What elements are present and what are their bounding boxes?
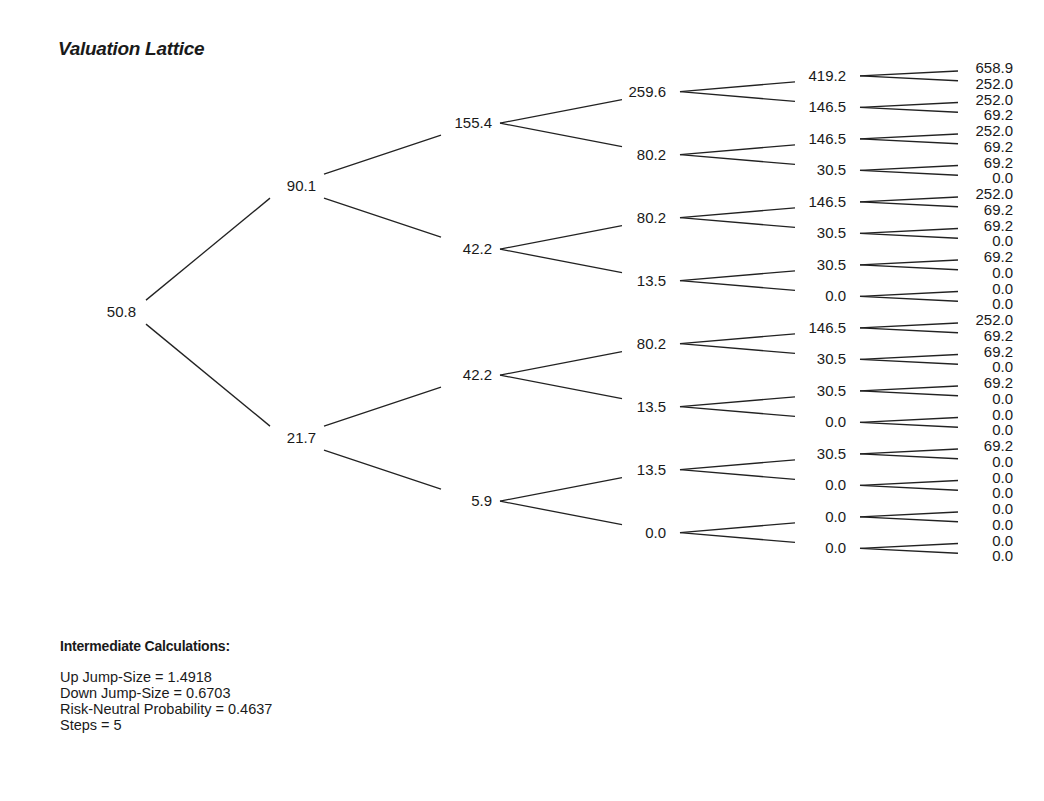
lattice-node-l5-24: 69.2 — [984, 438, 1013, 454]
lattice-node-l5-7: 0.0 — [992, 170, 1013, 186]
lattice-node-l5-27: 0.0 — [992, 485, 1013, 501]
connector-line — [680, 460, 795, 470]
connector-line — [860, 107, 958, 112]
lattice-node-l5-13: 0.0 — [992, 265, 1013, 281]
connector-line — [860, 481, 958, 486]
lattice-node-l4-6: 30.5 — [817, 257, 846, 273]
connector-line — [860, 166, 958, 171]
connector-line — [860, 517, 958, 522]
connector-line — [500, 226, 622, 250]
connector-line — [860, 202, 958, 207]
lattice-node-l4-0: 419.2 — [808, 68, 846, 84]
connector-line — [500, 478, 622, 502]
connector-line — [500, 123, 622, 147]
connector-line — [860, 103, 958, 108]
lattice-node-l5-15: 0.0 — [992, 296, 1013, 312]
lattice-node-l5-22: 0.0 — [992, 407, 1013, 423]
lattice-node-l4-2: 146.5 — [808, 131, 846, 147]
lattice-node-l3-3: 13.5 — [637, 273, 666, 289]
connector-line — [680, 344, 795, 354]
lattice-node-l5-20: 69.2 — [984, 375, 1013, 391]
connector-line — [860, 260, 958, 265]
lattice-node-l5-11: 0.0 — [992, 233, 1013, 249]
connector-line — [324, 135, 441, 174]
connector-line — [860, 512, 958, 517]
lattice-node-l5-4: 252.0 — [975, 123, 1013, 139]
connector-line — [860, 391, 958, 396]
connector-line — [860, 233, 958, 238]
connector-line — [860, 76, 958, 81]
lattice-node-l5-16: 252.0 — [975, 312, 1013, 328]
connector-line — [500, 100, 622, 124]
lattice-node-l5-8: 252.0 — [975, 186, 1013, 202]
lattice-node-l5-0: 658.9 — [975, 60, 1013, 76]
connector-line — [680, 145, 795, 155]
lattice-node-l4-8: 146.5 — [808, 320, 846, 336]
connector-line — [680, 271, 795, 281]
lattice-node-l5-2: 252.0 — [975, 92, 1013, 108]
connector-line — [860, 454, 958, 459]
connector-line — [500, 249, 622, 273]
connector-line — [680, 155, 795, 165]
connector-line — [860, 355, 958, 360]
lattice-node-l4-7: 0.0 — [825, 288, 846, 304]
connector-line — [680, 208, 795, 218]
connector-line — [500, 352, 622, 376]
connector-line — [500, 375, 622, 399]
connector-line — [860, 449, 958, 454]
connector-line — [860, 386, 958, 391]
down-jump-size: Down Jump-Size = 0.6703 — [60, 685, 272, 701]
lattice-node-l3-5: 13.5 — [637, 399, 666, 415]
intermediate-calculations: Intermediate Calculations: Up Jump-Size … — [60, 638, 272, 733]
lattice-node-l5-26: 0.0 — [992, 470, 1013, 486]
lattice-node-l5-10: 69.2 — [984, 218, 1013, 234]
connector-line — [860, 139, 958, 144]
lattice-node-l5-14: 0.0 — [992, 281, 1013, 297]
lattice-node-l5-23: 0.0 — [992, 422, 1013, 438]
lattice-node-l5-21: 0.0 — [992, 391, 1013, 407]
lattice-node-l3-1: 80.2 — [637, 147, 666, 163]
connector-line — [860, 170, 958, 175]
lattice-node-l1-1: 21.7 — [287, 430, 316, 446]
lattice-node-l5-25: 0.0 — [992, 454, 1013, 470]
lattice-node-l4-11: 0.0 — [825, 414, 846, 430]
connector-line — [324, 450, 441, 489]
connector-line — [860, 548, 958, 553]
connector-line — [860, 323, 958, 328]
lattice-node-l5-28: 0.0 — [992, 501, 1013, 517]
connector-line — [860, 418, 958, 423]
connector-line — [860, 292, 958, 297]
lattice-node-l0-0: 50.8 — [107, 304, 136, 320]
lattice-node-l4-3: 30.5 — [817, 162, 846, 178]
lattice-node-l5-1: 252.0 — [975, 76, 1013, 92]
lattice-node-l5-17: 69.2 — [984, 328, 1013, 344]
lattice-node-l4-15: 0.0 — [825, 540, 846, 556]
connector-line — [680, 92, 795, 102]
lattice-node-l3-4: 80.2 — [637, 336, 666, 352]
lattice-node-l1-0: 90.1 — [287, 178, 316, 194]
lattice-node-l3-6: 13.5 — [637, 462, 666, 478]
lattice-node-l2-0: 155.4 — [454, 115, 492, 131]
lattice-node-l5-3: 69.2 — [984, 107, 1013, 123]
connector-line — [860, 265, 958, 270]
lattice-node-l2-3: 5.9 — [471, 493, 492, 509]
connector-line — [860, 544, 958, 549]
connector-line — [680, 407, 795, 417]
lattice-node-l4-1: 146.5 — [808, 99, 846, 115]
lattice-node-l4-14: 0.0 — [825, 509, 846, 525]
connector-line — [860, 71, 958, 76]
lattice-node-l5-6: 69.2 — [984, 155, 1013, 171]
connector-line — [860, 328, 958, 333]
lattice-node-l4-4: 146.5 — [808, 194, 846, 210]
connector-line — [680, 470, 795, 480]
lattice-node-l4-13: 0.0 — [825, 477, 846, 493]
lattice-node-l5-29: 0.0 — [992, 517, 1013, 533]
lattice-node-l4-9: 30.5 — [817, 351, 846, 367]
lattice-node-l3-2: 80.2 — [637, 210, 666, 226]
lattice-node-l4-12: 30.5 — [817, 446, 846, 462]
connector-line — [680, 82, 795, 92]
connector-line — [680, 397, 795, 407]
calculations-header: Intermediate Calculations: — [60, 638, 272, 654]
connector-line — [500, 501, 622, 525]
connector-line — [146, 198, 270, 300]
